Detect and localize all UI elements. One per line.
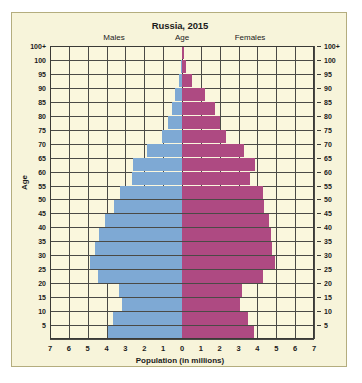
y-tick-right-100: 100 xyxy=(324,57,354,64)
y-tickmark xyxy=(317,88,321,89)
y-tick-left-70: 70 xyxy=(16,141,46,148)
y-tick-right-5: 5 xyxy=(324,322,354,329)
x-tick-1: 6 xyxy=(62,344,76,353)
y-tick-left-50: 50 xyxy=(16,196,46,203)
y-tick-left-60: 60 xyxy=(16,169,46,176)
bar-male-age-60 xyxy=(132,172,182,185)
bar-female-age-35 xyxy=(182,242,272,255)
bar-female-age-45 xyxy=(182,214,269,227)
y-tickmark xyxy=(317,255,321,256)
y-tick-right-75: 75 xyxy=(324,127,354,134)
x-tick-9: 2 xyxy=(213,344,227,353)
grid-vertical xyxy=(276,46,277,339)
bar-female-age-10 xyxy=(182,312,248,325)
bar-female-age-100+ xyxy=(182,47,184,60)
bar-female-age-80 xyxy=(182,116,220,129)
bar-female-age-50 xyxy=(182,200,264,213)
y-tick-left-90: 90 xyxy=(16,85,46,92)
y-tick-right-25: 25 xyxy=(324,266,354,273)
y-tickmark xyxy=(317,297,321,298)
chart-title: Russia, 2015 xyxy=(12,20,348,31)
y-axis-left-ticks: 100+100959085807570656055504540353025201… xyxy=(12,46,46,339)
bar-female-age-30 xyxy=(182,256,275,269)
y-tick-right-50: 50 xyxy=(324,196,354,203)
y-tick-left-15: 15 xyxy=(16,294,46,301)
y-tick-left-95: 95 xyxy=(16,71,46,78)
y-tick-right-55: 55 xyxy=(324,183,354,190)
chart-frame: Russia, 2015 Males Age Females Age 100+1… xyxy=(11,12,347,367)
y-tickmark xyxy=(317,116,321,117)
bar-female-age-20 xyxy=(182,284,242,297)
y-tickmark xyxy=(317,199,321,200)
y-tick-right-35: 35 xyxy=(324,238,354,245)
bar-male-age-55 xyxy=(120,186,182,199)
bar-male-age-90 xyxy=(175,88,182,101)
y-tick-right-20: 20 xyxy=(324,280,354,287)
y-tickmark xyxy=(317,186,321,187)
bar-female-age-100 xyxy=(182,60,186,73)
y-tick-right-15: 15 xyxy=(324,294,354,301)
grid-vertical xyxy=(50,46,51,339)
bar-male-age-35 xyxy=(95,242,182,255)
y-tickmark xyxy=(317,46,321,47)
x-tick-13: 6 xyxy=(288,344,302,353)
bar-male-age-50 xyxy=(114,200,182,213)
y-tickmark xyxy=(317,144,321,145)
x-axis-ticks: 765432101234567 xyxy=(50,344,314,356)
y-tick-right-80: 80 xyxy=(324,113,354,120)
y-tick-left-30: 30 xyxy=(16,252,46,259)
y-tickmark xyxy=(317,130,321,131)
bar-male-age-65 xyxy=(133,158,182,171)
y-tick-right-60: 60 xyxy=(324,169,354,176)
y-tickmark xyxy=(317,311,321,312)
x-tick-8: 1 xyxy=(194,344,208,353)
bar-male-age-40 xyxy=(99,228,182,241)
y-tickmark xyxy=(317,158,321,159)
y-tick-left-100: 100 xyxy=(16,57,46,64)
x-tick-14: 7 xyxy=(307,344,321,353)
y-tick-left-40: 40 xyxy=(16,224,46,231)
y-tick-left-55: 55 xyxy=(16,183,46,190)
y-tick-right-85: 85 xyxy=(324,99,354,106)
pyramid-plot-area xyxy=(50,46,314,339)
x-tick-11: 4 xyxy=(250,344,264,353)
y-tick-left-80: 80 xyxy=(16,113,46,120)
bar-female-age-95 xyxy=(182,74,192,87)
y-tick-left-75: 75 xyxy=(16,127,46,134)
y-tick-left-5: 5 xyxy=(16,322,46,329)
grid-vertical xyxy=(295,46,296,339)
females-header-label: Females xyxy=(220,33,280,42)
bar-male-age-15 xyxy=(122,298,182,311)
y-tickmark xyxy=(317,269,321,270)
y-tickmark xyxy=(317,102,321,103)
bar-female-age-55 xyxy=(182,186,263,199)
y-tick-left-100+: 100+ xyxy=(16,43,46,50)
y-axis-right-ticks: 100+100959085807570656055504540353025201… xyxy=(317,46,349,339)
bar-female-age-15 xyxy=(182,298,240,311)
bar-male-age-75 xyxy=(162,130,182,143)
x-tick-4: 3 xyxy=(118,344,132,353)
y-tickmark xyxy=(317,325,321,326)
bar-female-age-25 xyxy=(182,270,263,283)
y-tick-left-85: 85 xyxy=(16,99,46,106)
y-tickmark xyxy=(317,74,321,75)
bar-male-age-70 xyxy=(147,144,182,157)
y-tick-left-35: 35 xyxy=(16,238,46,245)
grid-vertical xyxy=(88,46,89,339)
x-tick-7: 0 xyxy=(175,344,189,353)
bar-female-age-75 xyxy=(182,130,226,143)
x-tick-3: 4 xyxy=(100,344,114,353)
bar-male-age-85 xyxy=(172,102,182,115)
bar-male-age-10 xyxy=(113,312,182,325)
y-tick-left-45: 45 xyxy=(16,210,46,217)
y-tick-right-90: 90 xyxy=(324,85,354,92)
x-tick-6: 1 xyxy=(156,344,170,353)
grid-horizontal xyxy=(50,339,314,340)
bar-male-age-5 xyxy=(108,326,182,339)
bar-female-age-40 xyxy=(182,228,271,241)
x-tick-5: 2 xyxy=(137,344,151,353)
y-tickmark xyxy=(317,213,321,214)
bar-female-age-60 xyxy=(182,172,250,185)
bar-male-age-20 xyxy=(119,284,182,297)
y-tick-right-30: 30 xyxy=(324,252,354,259)
